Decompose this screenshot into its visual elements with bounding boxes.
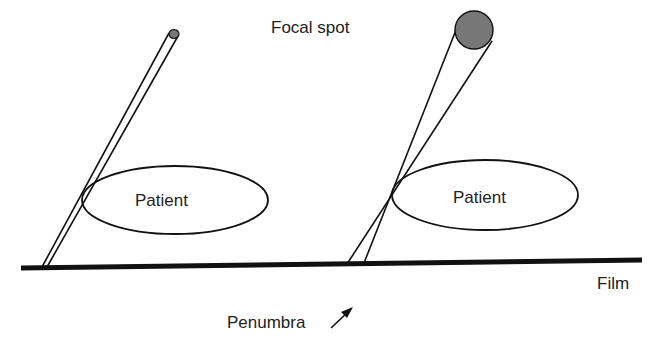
right-focal-spot-icon <box>455 11 493 49</box>
left-ray-outer <box>42 33 169 267</box>
penumbra-label: Penumbra <box>227 313 306 332</box>
right-ray-a <box>364 30 456 263</box>
right-ray-b <box>347 41 492 264</box>
left-patient-label: Patient <box>135 191 188 210</box>
film-label: Film <box>597 274 629 293</box>
left-focal-spot-icon <box>169 30 179 39</box>
diagram-canvas: Focal spot Patient Patient Film Penumbra <box>0 0 655 348</box>
film-line <box>21 260 642 268</box>
left-setup <box>42 30 268 268</box>
penumbra-arrow-icon <box>331 307 353 328</box>
left-ray-inner <box>47 36 178 267</box>
right-setup <box>347 11 578 264</box>
right-patient-label: Patient <box>453 188 506 207</box>
focal-spot-label: Focal spot <box>271 18 350 37</box>
